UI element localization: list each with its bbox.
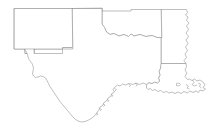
state-outline-arkansas[interactable] [161, 10, 189, 64]
coast-bay-2 [100, 109, 102, 112]
coast-barrier-island-1 [115, 89, 117, 92]
coast-barrier-island-3 [107, 100, 109, 103]
coast-bay-3 [96, 113, 98, 116]
map-canvas[interactable] [0, 0, 214, 136]
coast-bay-1 [103, 104, 105, 107]
state-arkansas[interactable] [161, 10, 189, 64]
coast-inlet-east [129, 84, 131, 87]
coast-barrier-island-2 [111, 95, 113, 98]
map-figure [0, 0, 214, 136]
coast-inlet-galveston [135, 84, 138, 87]
state-border-new-mexico-overlay [15, 9, 73, 54]
